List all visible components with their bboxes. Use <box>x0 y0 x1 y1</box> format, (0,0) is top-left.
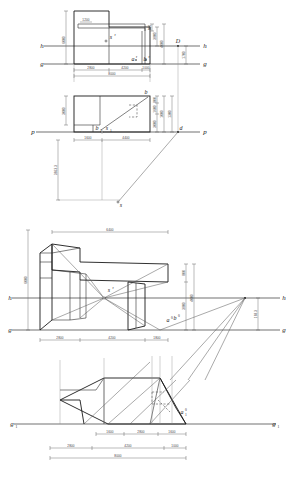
elevation-p-label-right: p <box>202 128 207 136</box>
elevation-s1-sub: 1 <box>110 129 112 133</box>
elevation-dim-1000: 1000 <box>160 110 164 117</box>
perspective-ray-7 <box>104 298 160 330</box>
ground-ray-2 <box>130 380 176 424</box>
elevation-dim-1600-h: 1600 <box>84 136 91 140</box>
plan-station-label: s <box>110 34 113 40</box>
elevation-outline <box>74 96 150 132</box>
elevation-dim-3000: 3000 <box>153 120 157 127</box>
elevation-s-bottom-point <box>117 201 119 203</box>
plan-dim-1000: 1000 <box>142 66 149 70</box>
ground-dim-1600-b: 1600 <box>168 430 175 434</box>
plan-station-point <box>105 40 107 42</box>
perspective-right-block <box>128 282 145 330</box>
perspective-h-label-right: h <box>282 294 286 302</box>
perspective-dim-4200: 4200 <box>108 336 115 340</box>
ground-ray-4 <box>84 362 150 424</box>
elevation-dashed-box <box>129 105 137 117</box>
ground-dim-1600-a: 1600 <box>106 430 113 434</box>
plan-dim-2800: 2800 <box>87 66 94 70</box>
perspective-top-dim-text: 6400 <box>106 228 113 232</box>
ground-dim-2800-mid: 2800 <box>67 444 74 448</box>
ground-total-dim-text: 8000 <box>114 454 121 458</box>
perspective-mid-body <box>70 272 86 320</box>
plan-notch-edge <box>78 24 145 31</box>
elevation-dim-800: 800 <box>153 97 157 103</box>
elevation-b1-label: b <box>96 125 99 131</box>
elevation-b-label: b <box>145 89 148 95</box>
perspective-b0-label: b <box>174 315 177 321</box>
ground-g1-sub-right: 1 <box>278 425 280 429</box>
plan-a-point <box>135 59 137 61</box>
perspective-vp-ray-3 <box>205 298 245 380</box>
perspective-station-label: s <box>108 287 111 293</box>
perspective-ray-8 <box>86 274 104 298</box>
ground-a0-sub: 1 <box>185 413 187 417</box>
elevation-dim-1600: 1600 <box>153 105 157 112</box>
perspective-dim-4000: 4000 <box>190 294 194 301</box>
perspective-dim-1800: 1800 <box>153 336 160 340</box>
ground-a0-sup: 0 <box>185 408 187 412</box>
plan-inner-step <box>78 24 145 64</box>
plan-dim-4200: 4200 <box>121 66 128 70</box>
plan-D-label: D <box>175 38 181 44</box>
elevation-d-label: d <box>180 125 184 131</box>
ground-a0-label: a <box>181 409 184 415</box>
perspective-vp-ray-2 <box>188 298 245 380</box>
plan-a-sup: r <box>136 55 138 59</box>
perspective-a0-label: a <box>167 317 170 323</box>
perspective-station-point <box>103 297 105 299</box>
plan-right-dim-800: 800 <box>148 25 152 31</box>
plan-total-dim-text: 8000 <box>108 72 115 76</box>
plan-D-dim-text: 1700 <box>182 51 186 58</box>
elevation-p-label-left: p <box>30 128 35 136</box>
ground-dim-1000-mid: 1000 <box>171 444 178 448</box>
perspective-g-label-left: g <box>8 326 12 334</box>
elevation-depth-dim-text: 3663.3 <box>54 165 58 175</box>
elevation-s-bottom-label: s <box>120 202 123 208</box>
plan-g-label-left: g <box>40 60 44 68</box>
perspective-h-label-left: h <box>8 294 12 302</box>
plan-g-label-right: g <box>203 60 207 68</box>
ground-main-shape <box>60 378 186 424</box>
perspective-station-sup: r <box>113 286 115 290</box>
ground-ray-3 <box>150 380 190 424</box>
ground-g1-label-right: g <box>272 420 276 428</box>
elevation-long-ray <box>118 132 178 202</box>
perspective-b0-sup: 0 <box>178 314 180 318</box>
plan-left-dim-text: 6000 <box>62 36 66 43</box>
plan-a-label: a <box>132 56 135 62</box>
elevation-dim-4400-h: 4400 <box>122 136 129 140</box>
elevation-s1-point <box>101 131 103 133</box>
plan-station-sup: r <box>115 33 117 37</box>
perspective-dim-3800: 3800 <box>182 302 186 309</box>
perspective-left-face <box>40 244 52 330</box>
perspective-left-dim-text: 6000 <box>24 276 28 283</box>
ground-right-diag <box>150 378 160 424</box>
perspective-dim-2800: 2800 <box>56 336 63 340</box>
ground-g1-sub-left: 1 <box>16 425 18 429</box>
perspective-g-label-right: g <box>282 326 286 334</box>
ground-dim-2800: 2800 <box>137 430 144 434</box>
ground-step-shape <box>60 400 84 424</box>
ground-inner-lines <box>60 378 104 424</box>
plan-right-dim-3800: 3800 <box>153 32 157 39</box>
plan-right-dim-4000: 4000 <box>160 40 164 47</box>
technical-drawing-canvas: h h g g 1200 s r a r b r <box>0 0 290 480</box>
elevation-left-dim-text: 3000 <box>62 107 66 114</box>
view-ground-plan: g 1 g 1 a 0 1 <box>10 356 279 460</box>
perspective-ray-5 <box>80 298 104 318</box>
elevation-dim-1300: 1300 <box>168 110 172 117</box>
ground-g1-label-left: g <box>10 420 14 428</box>
perspective-dim-800: 800 <box>182 270 186 276</box>
ground-dim-4200-mid: 4200 <box>124 444 131 448</box>
perspective-step-lines <box>40 262 52 278</box>
perspective-lower-body <box>52 270 70 320</box>
perspective-ray-6 <box>104 298 145 326</box>
perspective-dim-1683: 168.3 <box>254 310 258 318</box>
plan-b-label: b <box>144 56 147 62</box>
elevation-s1-label: s <box>106 125 109 131</box>
view-elevation: p p b b 1 s 1 d 3000 <box>30 89 207 208</box>
plan-h-label-right: h <box>203 42 207 50</box>
perspective-vp-ray-4 <box>160 298 245 330</box>
plan-h-label-left: h <box>40 42 44 50</box>
